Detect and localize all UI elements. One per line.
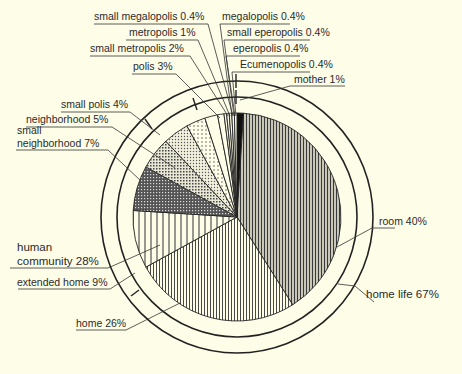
label-small-eperopolis: small eperopolis 0.4% <box>227 26 330 38</box>
label-metropolis: metropolis 1% <box>129 26 196 38</box>
pie-slices <box>133 113 341 321</box>
label-small-neighborhood-line1: small <box>17 124 42 136</box>
label-room: room 40% <box>379 215 427 227</box>
pie-chart: small megalopolis 0.4% megalopolis 0.4% … <box>0 0 462 374</box>
label-mother: mother 1% <box>294 73 345 85</box>
label-polis: polis 3% <box>133 60 173 72</box>
label-ecumenopolis: Ecumenopolis 0.4% <box>240 58 333 70</box>
label-small-neighborhood-line2: neighborhood 7% <box>17 137 99 149</box>
label-megalopolis: megalopolis 0.4% <box>222 10 305 22</box>
label-extended-home: extended home 9% <box>17 276 107 288</box>
label-small-metropolis: small metropolis 2% <box>90 42 184 54</box>
label-home: home 26% <box>76 317 126 329</box>
label-small-megalopolis: small megalopolis 0.4% <box>94 10 204 22</box>
label-human-community-line2: community 28% <box>17 255 99 267</box>
label-human-community-line1: human <box>17 241 52 253</box>
label-home-life: home life 67% <box>366 288 439 300</box>
label-eperopolis: eperopolis 0.4% <box>233 42 308 54</box>
label-small-polis: small polis 4% <box>61 98 128 110</box>
